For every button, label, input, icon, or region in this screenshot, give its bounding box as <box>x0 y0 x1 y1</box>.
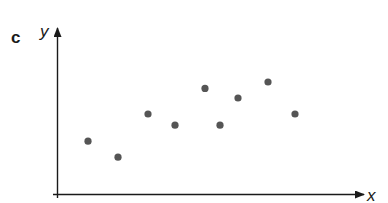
y-axis-label: y <box>39 22 50 41</box>
data-point-1 <box>84 138 91 145</box>
data-point-6 <box>216 122 223 129</box>
data-point-5 <box>201 85 208 92</box>
points-layer <box>84 78 298 160</box>
data-point-3 <box>144 110 151 117</box>
data-point-7 <box>234 94 241 101</box>
data-point-8 <box>264 78 271 85</box>
scatter-chart: c y x <box>0 0 388 203</box>
data-point-2 <box>114 154 121 161</box>
data-point-9 <box>291 110 298 117</box>
panel-label: c <box>11 28 20 47</box>
x-axis-label: x <box>366 186 376 203</box>
data-point-4 <box>171 122 178 129</box>
